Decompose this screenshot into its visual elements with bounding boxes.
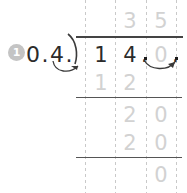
step1-digit-2: 2	[117, 70, 143, 96]
division-vinculum	[76, 36, 183, 38]
final-remainder-digit: 0	[148, 162, 174, 188]
subtraction-rule-2	[76, 157, 182, 158]
step2-digit-2: 0	[148, 102, 174, 128]
step3-digit-2: 0	[148, 130, 174, 156]
quotient-digit-1: 3	[117, 8, 143, 34]
decimal-shift-arrow-right-icon	[142, 58, 180, 74]
dividend-digit-2: 4	[117, 42, 143, 68]
quotient-digit-2: 5	[148, 8, 174, 34]
step2-digit-1: 2	[117, 102, 143, 128]
problem-number-badge: 1	[8, 44, 25, 61]
dividend-digit-1: 1	[88, 42, 114, 68]
subtraction-rule-1	[76, 97, 182, 98]
long-division-worksheet: 1 0.4. 3 5 1 4 . 0 . 1 2 2 0 2 0 0	[0, 0, 187, 193]
step1-digit-1: 1	[88, 70, 114, 96]
step3-digit-1: 2	[117, 130, 143, 156]
